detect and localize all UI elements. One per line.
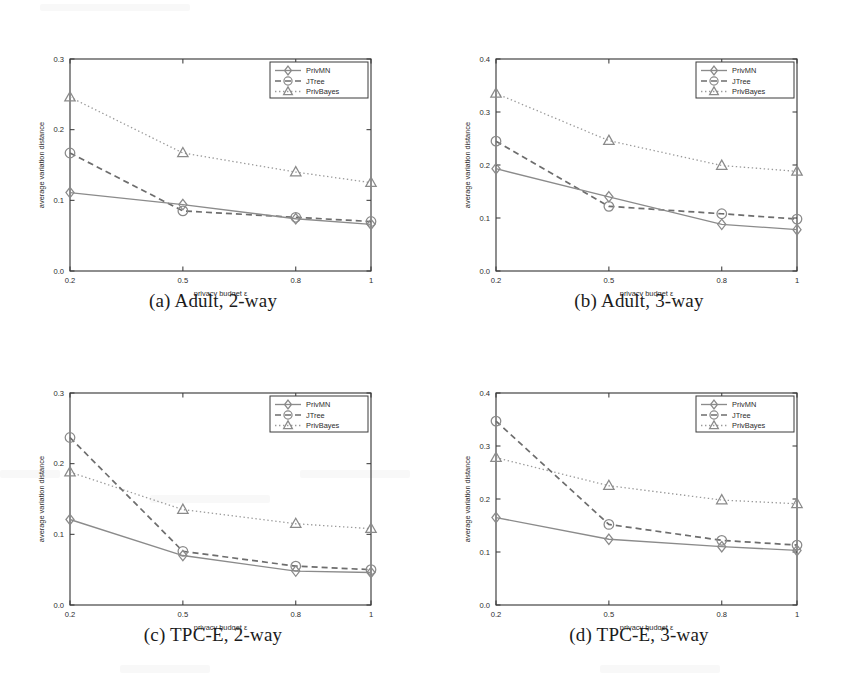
x-tick-label: 0.2 xyxy=(491,610,502,619)
series-line-privbayes xyxy=(496,93,797,171)
data-point-privbayes xyxy=(717,160,727,169)
series-line-privbayes xyxy=(70,97,371,183)
x-tick-label: 0.8 xyxy=(290,610,301,619)
y-tick-label: 0.4 xyxy=(479,389,490,398)
y-tick-label: 0.1 xyxy=(479,214,490,223)
y-tick-label: 0.2 xyxy=(479,495,490,504)
x-tick-label: 0.8 xyxy=(716,276,727,285)
data-point-privbayes xyxy=(178,148,188,157)
series-line-privmn xyxy=(70,519,371,572)
x-tick-label: 1 xyxy=(795,276,799,285)
y-tick-label: 0.1 xyxy=(53,530,64,539)
x-tick-label: 0.2 xyxy=(65,276,76,285)
y-tick-label: 0.3 xyxy=(53,55,64,64)
panel-caption-a: (a) Adult, 2-way xyxy=(0,290,426,312)
data-point-privbayes xyxy=(604,135,614,144)
x-tick-label: 0.5 xyxy=(604,610,615,619)
legend-label-privbayes: PrivBayes xyxy=(306,87,340,96)
legend-label-jtree: JTree xyxy=(306,77,325,86)
legend-label-privbayes: PrivBayes xyxy=(732,421,766,430)
plot-area-a: 0.00.10.20.30.20.50.81privacy budget εav… xyxy=(0,18,426,296)
series-line-jtree xyxy=(70,153,371,222)
panel-caption-b: (b) Adult, 3-way xyxy=(426,290,852,312)
y-tick-label: 0.0 xyxy=(53,267,64,276)
x-tick-label: 1 xyxy=(369,276,373,285)
legend-label-privmn: PrivMN xyxy=(732,400,756,409)
x-tick-label: 0.2 xyxy=(65,610,76,619)
series-line-privbayes xyxy=(496,458,797,504)
series-line-jtree xyxy=(70,438,371,570)
chart-a: 0.00.10.20.30.20.50.81privacy budget εav… xyxy=(0,18,426,296)
figure-page: 0.00.10.20.30.20.50.81privacy budget εav… xyxy=(0,0,852,689)
x-tick-label: 1 xyxy=(795,610,799,619)
plot-area-c: 0.00.10.20.30.20.50.81privacy budget εav… xyxy=(0,352,426,630)
chart-b: 0.00.10.20.30.40.20.50.81privacy budget … xyxy=(426,18,852,296)
data-point-privbayes xyxy=(717,495,727,504)
y-axis-title: average variation distance xyxy=(463,456,472,542)
chart-c: 0.00.10.20.30.20.50.81privacy budget εav… xyxy=(0,352,426,630)
chart-d: 0.00.10.20.30.40.20.50.81privacy budget … xyxy=(426,352,852,630)
y-tick-label: 0.0 xyxy=(479,601,490,610)
y-tick-label: 0.2 xyxy=(479,161,490,170)
y-tick-label: 0.0 xyxy=(479,267,490,276)
x-tick-label: 1 xyxy=(369,610,373,619)
series-line-privmn xyxy=(496,169,797,230)
y-axis-title: average variation distance xyxy=(37,122,46,208)
y-tick-label: 0.1 xyxy=(479,548,490,557)
series-line-privmn xyxy=(496,518,797,551)
figure-panel-c: 0.00.10.20.30.20.50.81privacy budget εav… xyxy=(0,352,426,686)
legend-label-privmn: PrivMN xyxy=(306,66,330,75)
x-tick-label: 0.8 xyxy=(716,610,727,619)
y-tick-label: 0.4 xyxy=(479,55,490,64)
panel-caption-c: (c) TPC-E, 2-way xyxy=(0,624,426,646)
x-tick-label: 0.5 xyxy=(604,276,615,285)
y-tick-label: 0.2 xyxy=(53,459,64,468)
figure-panel-b: 0.00.10.20.30.40.20.50.81privacy budget … xyxy=(426,18,852,352)
data-point-privbayes xyxy=(178,504,188,513)
legend-label-privmn: PrivMN xyxy=(732,66,756,75)
y-tick-label: 0.2 xyxy=(53,125,64,134)
panel-caption-d: (d) TPC-E, 3-way xyxy=(426,624,852,646)
x-tick-label: 0.8 xyxy=(290,276,301,285)
legend-label-jtree: JTree xyxy=(306,411,325,420)
legend-label-privbayes: PrivBayes xyxy=(732,87,766,96)
y-tick-label: 0.1 xyxy=(53,196,64,205)
plot-area-d: 0.00.10.20.30.40.20.50.81privacy budget … xyxy=(426,352,852,630)
legend-label-jtree: JTree xyxy=(732,411,751,420)
x-tick-label: 0.5 xyxy=(178,276,189,285)
y-tick-label: 0.3 xyxy=(479,108,490,117)
x-tick-label: 0.5 xyxy=(178,610,189,619)
y-axis-title: average variation distance xyxy=(463,122,472,208)
figure-panel-a: 0.00.10.20.30.20.50.81privacy budget εav… xyxy=(0,18,426,352)
y-tick-label: 0.3 xyxy=(53,389,64,398)
figure-panel-d: 0.00.10.20.30.40.20.50.81privacy budget … xyxy=(426,352,852,686)
y-tick-label: 0.3 xyxy=(479,442,490,451)
plot-area-b: 0.00.10.20.30.40.20.50.81privacy budget … xyxy=(426,18,852,296)
series-line-privbayes xyxy=(70,472,371,529)
legend-label-privmn: PrivMN xyxy=(306,400,330,409)
y-tick-label: 0.0 xyxy=(53,601,64,610)
legend-label-privbayes: PrivBayes xyxy=(306,421,340,430)
figure-grid: 0.00.10.20.30.20.50.81privacy budget εav… xyxy=(0,0,852,689)
legend-label-jtree: JTree xyxy=(732,77,751,86)
y-axis-title: average variation distance xyxy=(37,456,46,542)
x-tick-label: 0.2 xyxy=(491,276,502,285)
